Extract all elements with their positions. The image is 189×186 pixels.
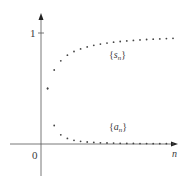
data-point: [133, 40, 135, 42]
origin-label: 0: [32, 149, 38, 161]
data-point: [146, 143, 148, 145]
data-point: [100, 43, 102, 45]
series-a-label: {an}: [109, 121, 127, 134]
data-point: [119, 41, 121, 43]
data-point: [139, 143, 141, 145]
data-point: [73, 51, 75, 53]
data-point: [133, 143, 135, 145]
data-point: [159, 38, 161, 40]
data-point: [93, 44, 95, 46]
data-point: [106, 42, 108, 44]
data-point: [80, 48, 82, 50]
data-point: [100, 142, 102, 144]
data-point: [152, 143, 154, 145]
y-axis-arrow-icon: [39, 13, 44, 20]
data-point: [139, 39, 141, 41]
data-point: [86, 141, 88, 143]
data-point: [119, 142, 121, 144]
data-point: [53, 125, 55, 127]
data-point: [60, 60, 62, 62]
data-point: [67, 54, 69, 56]
data-point: [47, 88, 49, 90]
data-point: [146, 39, 148, 41]
data-point: [113, 41, 115, 43]
series-a-points: [47, 88, 174, 145]
data-point: [126, 143, 128, 145]
data-point: [106, 142, 108, 144]
data-point: [60, 134, 62, 136]
data-point: [172, 37, 174, 39]
data-point: [126, 40, 128, 42]
data-point: [80, 140, 82, 142]
data-point: [159, 143, 161, 145]
data-point: [166, 38, 168, 40]
data-point: [53, 69, 55, 71]
y-tick-label-one: 1: [30, 27, 36, 39]
data-point: [86, 46, 88, 48]
x-axis-arrow-icon: [171, 142, 178, 147]
data-point: [73, 139, 75, 141]
data-point: [166, 143, 168, 145]
x-axis-label: n: [172, 148, 177, 159]
series-s-points: [47, 37, 174, 89]
series-s-label: {sn}: [109, 49, 126, 62]
data-point: [113, 142, 115, 144]
data-point: [67, 138, 69, 140]
data-point: [152, 38, 154, 40]
data-point: [172, 143, 174, 145]
data-point: [93, 142, 95, 144]
sequence-chart: 1 0 n {sn} {an}: [0, 0, 189, 186]
